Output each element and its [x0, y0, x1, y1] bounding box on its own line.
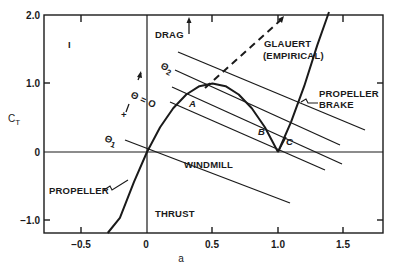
point-c-marker [278, 137, 286, 152]
theta-increase-arrow-icon [126, 104, 129, 112]
propeller-brake-leader-icon [301, 99, 318, 103]
y-axis-title: CT [8, 113, 20, 127]
windmill-label: WINDMILL [184, 159, 233, 170]
point-A-label: A [188, 98, 196, 109]
point-C-label: C [286, 136, 293, 147]
propeller-label: PROPELLER [49, 185, 109, 196]
propeller-brake-label: PROPELLER [319, 88, 379, 99]
theta2-label: Θ2 [158, 60, 175, 78]
x-tick-label-0: 0 [143, 239, 149, 250]
x-ticks-bottom [81, 227, 343, 233]
x-ticks-top [81, 15, 343, 22]
drag-arrowhead-icon [187, 17, 192, 23]
theta1-label: Θ1 [102, 133, 119, 150]
pitch-line-theta1 [125, 140, 290, 203]
thrust-label: THRUST [155, 208, 195, 219]
x-axis-title: a [178, 253, 184, 264]
theta0-label: Θ = O [129, 89, 158, 110]
x-tick-label-1.0: 1.0 [271, 239, 285, 250]
propeller-brake-curve [278, 12, 329, 152]
plot-frame [44, 15, 383, 233]
y-tick-label-2: 2.0 [26, 10, 40, 21]
glauert-empirical-label: (EMPIRICAL) [263, 50, 324, 61]
region-I-label: I [68, 39, 71, 50]
drag-label: DRAG [155, 29, 184, 40]
x-tick-label-neg0.5: −0.5 [71, 239, 91, 250]
brake-label: BRAKE [319, 99, 354, 110]
x-tick-label-0.5: 0.5 [205, 239, 219, 250]
theta-arrowhead-icon [137, 71, 142, 78]
x-tick-label-1.5: 1.5 [336, 239, 350, 250]
y-tick-label-0: 0 [34, 147, 40, 158]
y-tick-label-neg1: −1.0 [20, 215, 40, 226]
y-tick-label-1: 1.0 [26, 78, 40, 89]
glauert-label: GLAUERT [264, 38, 311, 49]
thrust-coefficient-chart: 2.0 1.0 0 −1.0 −0.5 0 0.5 1.0 1.5 a CT I… [0, 0, 395, 269]
point-B-label: B [258, 126, 265, 137]
